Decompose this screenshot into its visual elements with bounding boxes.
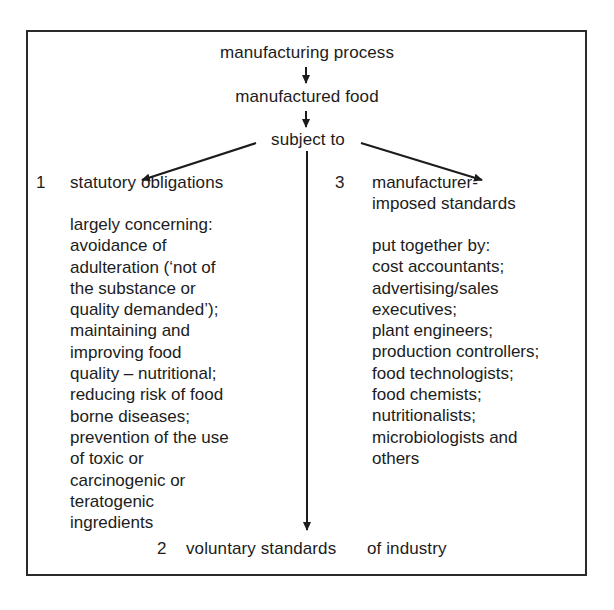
description-line: quality – nutritional; xyxy=(70,363,229,384)
description-line: nutritionalists; xyxy=(372,405,539,426)
description-line: quality demanded’); xyxy=(70,299,229,320)
description-line: food chemists; xyxy=(372,384,539,405)
description-line: teratogenic xyxy=(70,491,229,512)
branch-3-description: put together by: cost accountants; adver… xyxy=(372,235,539,469)
description-line: others xyxy=(372,448,539,469)
description-line: prevention of the use xyxy=(70,427,229,448)
description-line: largely concerning: xyxy=(70,214,229,235)
description-line: microbiologists and xyxy=(372,427,539,448)
branch-3-title: manufacturer- imposed standards xyxy=(372,172,516,215)
description-line: executives; xyxy=(372,299,539,320)
description-line: adulteration (‘not of xyxy=(70,257,229,278)
node-manufacturing-process: manufacturing process xyxy=(220,42,394,63)
description-line: cost accountants; xyxy=(372,256,539,277)
description-line: borne diseases; xyxy=(70,406,229,427)
description-line: maintaining and xyxy=(70,320,229,341)
branch-1-title: statutory obligations xyxy=(70,172,223,193)
description-line: carcinogenic or xyxy=(70,470,229,491)
description-line: food technologists; xyxy=(372,363,539,384)
branch-1-description: largely concerning: avoidance of adulter… xyxy=(70,214,229,533)
node-manufactured-food: manufactured food xyxy=(235,86,378,107)
description-line: reducing risk of food xyxy=(70,384,229,405)
branch-2-title: voluntary standards xyxy=(186,538,336,559)
node-subject-to: subject to xyxy=(271,129,345,150)
title-line: manufacturer- xyxy=(372,172,516,193)
description-line: advertising/sales xyxy=(372,278,539,299)
branch-1-number: 1 xyxy=(36,172,46,193)
description-line: production controllers; xyxy=(372,341,539,362)
description-line: the substance or xyxy=(70,278,229,299)
branch-2-number: 2 xyxy=(157,538,167,559)
title-line: imposed standards xyxy=(372,193,516,214)
description-line: ingredients xyxy=(70,512,229,533)
branch-3-number: 3 xyxy=(335,172,345,193)
branch-2-suffix: of industry xyxy=(367,538,447,559)
description-line: improving food xyxy=(70,342,229,363)
description-line: of toxic or xyxy=(70,448,229,469)
description-line: plant engineers; xyxy=(372,320,539,341)
description-line: put together by: xyxy=(372,235,539,256)
description-line: avoidance of xyxy=(70,235,229,256)
